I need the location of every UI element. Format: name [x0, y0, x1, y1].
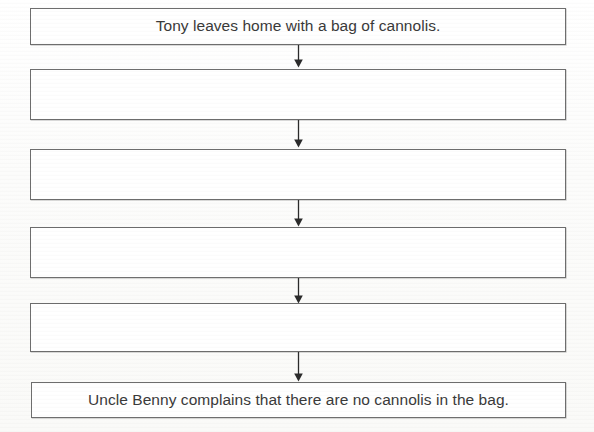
- down-arrow-icon-2: [293, 120, 304, 148]
- down-arrow-icon-5: [293, 352, 304, 382]
- flowchart-box-6-label: Uncle Benny complains that there are no …: [88, 391, 509, 410]
- flowchart-box-1[interactable]: Tony leaves home with a bag of cannolis.: [30, 8, 566, 45]
- down-arrow-icon-4: [293, 278, 304, 304]
- flowchart-box-6[interactable]: Uncle Benny complains that there are no …: [31, 382, 566, 418]
- flowchart-box-1-label: Tony leaves home with a bag of cannolis.: [156, 17, 441, 36]
- down-arrow-icon-3: [293, 200, 304, 227]
- flowchart-box-5[interactable]: [30, 303, 566, 352]
- flowchart-box-3[interactable]: [30, 149, 566, 200]
- down-arrow-icon-1: [293, 45, 304, 68]
- flowchart-box-2[interactable]: [30, 69, 566, 120]
- flowchart: Tony leaves home with a bag of cannolis.: [0, 0, 594, 432]
- flowchart-box-4[interactable]: [30, 227, 566, 278]
